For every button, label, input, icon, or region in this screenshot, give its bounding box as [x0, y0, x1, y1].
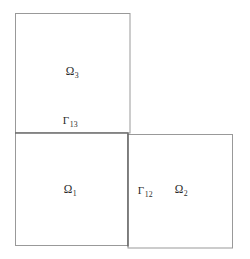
- gamma-13-symbol: Γ: [63, 114, 70, 126]
- gamma-13-subscript: 13: [70, 119, 78, 128]
- omega-3-symbol: Ω: [66, 65, 75, 77]
- subdomain-label-omega-2: Ω2: [175, 184, 188, 196]
- gamma-12-subscript: 12: [145, 189, 153, 198]
- gamma-12-symbol: Γ: [138, 184, 145, 196]
- subdomain-label-omega-1: Ω1: [64, 184, 77, 196]
- figure-canvas: [0, 0, 250, 259]
- interface-label-gamma-12: Γ12: [138, 185, 152, 196]
- omega-1-subscript: 1: [73, 189, 77, 198]
- omega-2-symbol: Ω: [175, 183, 184, 195]
- subdomain-label-omega-3: Ω3: [66, 66, 79, 78]
- interface-label-gamma-13: Γ13: [63, 115, 77, 126]
- omega-2-subscript: 2: [184, 189, 188, 198]
- domain-decomposition-figure: Ω3 Γ13 Ω1 Γ12 Ω2: [0, 0, 250, 259]
- omega-3-subscript: 3: [75, 71, 79, 80]
- omega-1-symbol: Ω: [64, 183, 73, 195]
